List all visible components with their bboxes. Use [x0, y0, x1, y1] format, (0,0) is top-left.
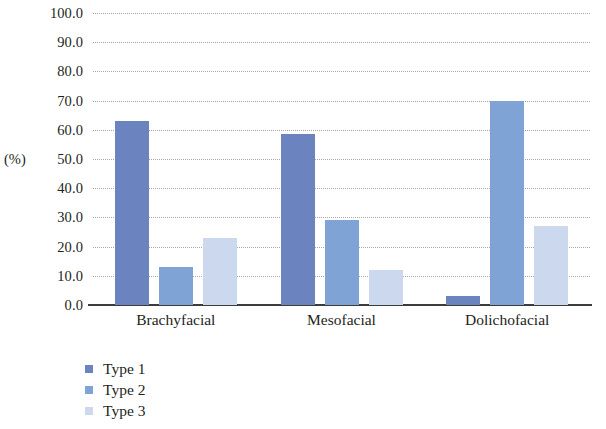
y-axis-tick-label: 90.0 — [57, 34, 83, 51]
y-axis-tick-label: 10.0 — [57, 267, 83, 284]
legend-swatch-icon — [85, 386, 93, 394]
legend-label: Type 1 — [103, 361, 145, 377]
y-axis-tick-label: 30.0 — [57, 209, 83, 226]
bar-dolichofacial-type-2 — [490, 101, 524, 305]
bar-dolichofacial-type-3 — [534, 226, 568, 305]
bar-group-dolichofacial — [446, 13, 568, 305]
legend-item-type-3[interactable]: Type 3 — [85, 400, 145, 421]
bar-mesofacial-type-2 — [325, 220, 359, 305]
bar-dolichofacial-type-1 — [446, 296, 480, 305]
category-label: Mesofacial — [307, 311, 376, 329]
y-axis-tick-label: 80.0 — [57, 63, 83, 80]
legend-swatch-icon — [85, 365, 93, 373]
bar-group-brachyfacial — [115, 13, 237, 305]
bar-brachyfacial-type-2 — [159, 267, 193, 305]
legend-item-type-1[interactable]: Type 1 — [85, 358, 145, 379]
bar-mesofacial-type-3 — [369, 270, 403, 305]
y-axis-title: (%) — [4, 151, 26, 168]
y-axis-tick-label: 100.0 — [50, 5, 83, 22]
y-axis-tick-label: 0.0 — [65, 297, 83, 314]
bar-mesofacial-type-1 — [281, 134, 315, 305]
legend-label: Type 3 — [103, 403, 145, 419]
y-axis-tick-label: 20.0 — [57, 238, 83, 255]
bar-series-container — [93, 13, 590, 305]
y-axis: 100.090.080.070.060.050.040.030.020.010.… — [0, 0, 88, 320]
bar-chart-figure: 100.090.080.070.060.050.040.030.020.010.… — [0, 0, 606, 429]
y-axis-tick-label: 60.0 — [57, 121, 83, 138]
legend-label: Type 2 — [103, 382, 145, 398]
category-label: Brachyfacial — [136, 311, 215, 329]
category-label: Dolichofacial — [465, 311, 549, 329]
legend-item-type-2[interactable]: Type 2 — [85, 379, 145, 400]
y-axis-tick-label: 40.0 — [57, 180, 83, 197]
bar-brachyfacial-type-1 — [115, 121, 149, 305]
chart-legend: Type 1Type 2Type 3 — [85, 358, 145, 421]
bar-group-mesofacial — [281, 13, 403, 305]
legend-swatch-icon — [85, 407, 93, 415]
y-axis-tick-label: 70.0 — [57, 92, 83, 109]
bar-brachyfacial-type-3 — [203, 238, 237, 305]
x-axis-category-labels: BrachyfacialMesofacialDolichofacial — [93, 311, 590, 337]
y-axis-tick-label: 50.0 — [57, 151, 83, 168]
